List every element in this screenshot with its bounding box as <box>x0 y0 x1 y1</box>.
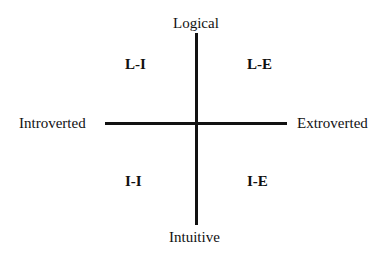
quadrant-diagram: Logical Intuitive Introverted Extroverte… <box>0 0 387 260</box>
vertical-axis-line <box>195 33 198 225</box>
quadrant-label-top-left: L-I <box>125 55 146 73</box>
quadrant-label-top-right: L-E <box>247 55 272 73</box>
quadrant-label-bottom-right: I-E <box>247 172 268 190</box>
axis-label-logical: Logical <box>173 14 219 32</box>
quadrant-label-bottom-left: I-I <box>125 172 142 190</box>
axis-label-introverted: Introverted <box>19 114 86 132</box>
axis-label-intuitive: Intuitive <box>169 228 220 246</box>
axis-label-extroverted: Extroverted <box>297 114 368 132</box>
